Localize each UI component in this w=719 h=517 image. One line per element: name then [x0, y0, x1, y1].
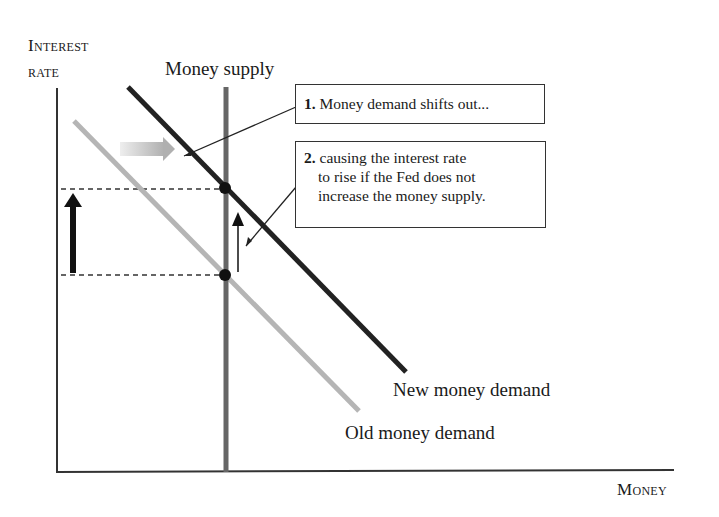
old-demand-label: Old money demand	[345, 422, 495, 444]
money-supply-label: Money supply	[165, 58, 274, 80]
shift-right-arrow-icon	[120, 137, 175, 161]
y-axis-label: INTEREST	[28, 36, 89, 56]
callout-2-line-2: to rise if the Fed does not	[304, 167, 537, 186]
rate-rise-arrow-icon	[64, 193, 82, 273]
callout-2: 2. causing the interest rate to rise if …	[295, 141, 546, 228]
small-up-arrow-icon	[232, 212, 244, 272]
callout-2-text-1: causing the interest rate	[320, 149, 467, 166]
y-label-rest: NTEREST	[34, 40, 89, 54]
new-equilibrium-point	[219, 182, 231, 194]
x-label-rest: ONEY	[632, 484, 667, 498]
callout-1-text: Money demand shifts out...	[320, 95, 490, 112]
callout-1-leader	[184, 107, 296, 156]
x-axis	[56, 470, 674, 472]
callout-2-number: 2.	[304, 149, 316, 166]
x-axis-label: MONEY	[617, 480, 667, 500]
callout-2-line-3: increase the money supply.	[304, 186, 537, 205]
new-demand-label: New money demand	[393, 379, 550, 401]
callout-1: 1. Money demand shifts out...	[295, 84, 545, 124]
old-equilibrium-point	[219, 269, 231, 281]
callout-2-line-1: 2. causing the interest rate	[304, 148, 537, 167]
callout-1-number: 1.	[304, 95, 316, 112]
x-label-cap: M	[617, 480, 632, 499]
new-money-demand-curve	[128, 87, 406, 372]
y-axis-label-line2: RATE	[28, 63, 59, 81]
y-label-line2: RATE	[28, 66, 59, 80]
